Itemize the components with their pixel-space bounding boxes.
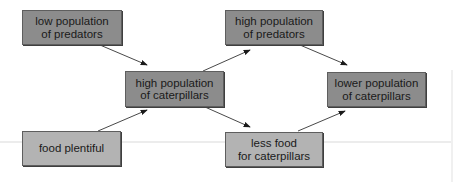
node-label: lower population — [335, 77, 419, 89]
node-label: of predators — [243, 28, 304, 40]
node-less-food: less foodfor caterpillars — [225, 132, 323, 167]
arrow-less-food-to-lower-caterpillars — [298, 111, 345, 131]
arrow-high-predators-to-lower-caterpillars — [300, 45, 347, 65]
node-label: of predators — [41, 28, 102, 40]
arrow-food-plentiful-to-high-caterpillars — [98, 110, 147, 131]
arrow-low-predators-to-high-caterpillars — [100, 45, 147, 65]
node-high-caterpillars: high populationof caterpillars — [125, 71, 224, 107]
node-label: low population — [35, 15, 109, 27]
node-food-plentiful: food plentiful — [22, 131, 121, 166]
arrow-high-caterpillars-to-high-predators — [203, 50, 250, 71]
node-label: for caterpillars — [238, 150, 310, 162]
node-label: of caterpillars — [342, 90, 410, 102]
arrow-high-caterpillars-to-less-food — [205, 107, 250, 127]
node-high-predators: high populationof predators — [225, 10, 323, 45]
node-label: food plentiful — [39, 142, 104, 154]
node-label: high population — [135, 77, 213, 89]
node-label: less food — [251, 137, 297, 149]
node-label: high population — [235, 15, 313, 27]
node-low-predators: low populationof predators — [22, 10, 122, 45]
node-label: of caterpillars — [140, 89, 208, 101]
node-lower-caterpillars: lower populationof caterpillars — [327, 72, 426, 107]
